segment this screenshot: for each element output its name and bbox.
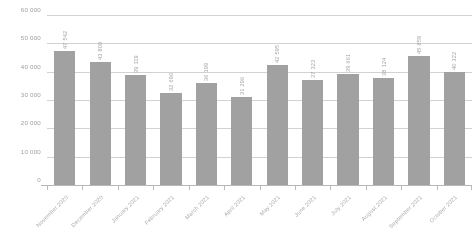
x-axis-tick-mark [189, 186, 190, 190]
y-axis-tick-label: 10 000 [21, 147, 41, 154]
x-axis-labels: November 2020December 2020January 2021Fe… [47, 192, 472, 244]
bar-value-label: 39 661 [345, 53, 351, 71]
x-axis-tick-mark [118, 186, 119, 190]
bar-slot: 31 296 [224, 16, 259, 186]
x-axis-tick-mark [401, 186, 402, 190]
x-label-slot: February 2021 [153, 192, 188, 244]
y-axis-tick-label: 20 000 [21, 119, 41, 126]
bar-value-label: 47 542 [62, 31, 68, 49]
bar[interactable]: 43 809 [90, 62, 111, 186]
bar[interactable]: 37 323 [302, 80, 323, 186]
y-axis-tick-label: 30 000 [21, 91, 41, 98]
y-axis-tick-label: 60 000 [21, 6, 41, 13]
bar-value-label: 45 859 [416, 36, 422, 54]
x-axis-tick-mark [366, 186, 367, 190]
plot-area: 010 00020 00030 00040 00050 00060 000 47… [47, 16, 472, 186]
bar-value-label: 43 809 [97, 42, 103, 60]
y-axis-tick-label: 0 [37, 176, 41, 183]
bar-slot: 38 124 [366, 16, 401, 186]
bar-slot: 37 323 [295, 16, 330, 186]
bar[interactable]: 39 661 [337, 74, 358, 186]
bar-slot: 47 542 [47, 16, 82, 186]
bar[interactable]: 39 119 [125, 75, 146, 186]
x-label-slot: March 2021 [189, 192, 224, 244]
bar-slot: 40 322 [437, 16, 472, 186]
x-label-slot: April 2021 [224, 192, 259, 244]
bar[interactable]: 42 595 [267, 65, 288, 186]
x-axis-category-label: March 2021 [184, 194, 211, 221]
x-label-slot: October 2021 [437, 192, 472, 244]
x-axis-category-label: April 2021 [223, 194, 246, 217]
x-axis-tick-mark [330, 186, 331, 190]
x-axis-tick-mark [437, 186, 438, 190]
bar-series: 47 54243 80939 11932 69636 19931 29642 5… [47, 16, 472, 186]
bar-value-label: 37 323 [310, 60, 316, 78]
bar-slot: 32 696 [153, 16, 188, 186]
bar-slot: 39 119 [118, 16, 153, 186]
x-axis-category-label: May 2021 [259, 194, 282, 217]
x-axis-tick-mark [82, 186, 83, 190]
x-axis-category-label: July 2021 [330, 194, 352, 216]
x-axis-category-label: November 2020 [35, 194, 69, 228]
bar[interactable]: 31 296 [231, 97, 252, 186]
bar[interactable]: 47 542 [54, 51, 75, 186]
x-axis-tick-mark [47, 186, 48, 190]
chart-scan-wrapper: 010 00020 00030 00040 00050 00060 000 47… [0, 0, 476, 244]
bar-slot: 42 595 [260, 16, 295, 186]
x-axis-tick-mark [224, 186, 225, 190]
bar[interactable]: 38 124 [373, 78, 394, 186]
bar-value-label: 42 595 [274, 45, 280, 63]
bar-chart: 010 00020 00030 00040 00050 00060 000 47… [0, 0, 476, 244]
x-axis-tick-mark [295, 186, 296, 190]
bar-value-label: 36 199 [203, 63, 209, 81]
x-axis-tick-mark [471, 186, 472, 190]
y-axis-tick-label: 50 000 [21, 34, 41, 41]
x-label-slot: June 2021 [295, 192, 330, 244]
bar[interactable]: 45 859 [408, 56, 429, 186]
x-axis-line [41, 185, 472, 186]
bar-value-label: 40 322 [451, 51, 457, 69]
bar-slot: 45 859 [401, 16, 436, 186]
x-label-slot: May 2021 [260, 192, 295, 244]
x-axis-category-label: June 2021 [293, 194, 317, 218]
bar-value-label: 39 119 [133, 55, 139, 73]
y-axis-tick-label: 40 000 [21, 62, 41, 69]
bar[interactable]: 40 322 [444, 72, 465, 186]
bar[interactable]: 36 199 [196, 83, 217, 186]
bar-slot: 36 199 [189, 16, 224, 186]
x-axis-tick-mark [260, 186, 261, 190]
bar-slot: 43 809 [82, 16, 117, 186]
bar-value-label: 31 296 [239, 77, 245, 95]
bar-value-label: 32 696 [168, 73, 174, 91]
bar-value-label: 38 124 [381, 58, 387, 76]
bar[interactable]: 32 696 [160, 93, 181, 186]
bar-slot: 39 661 [330, 16, 365, 186]
x-axis-tick-mark [153, 186, 154, 190]
